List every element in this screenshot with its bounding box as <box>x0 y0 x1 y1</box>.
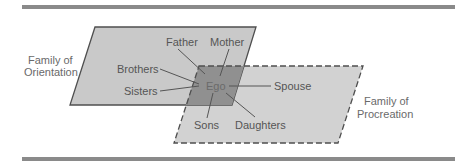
family-orientation-label-line2: Orientation <box>24 66 78 78</box>
spouse-label: Spouse <box>274 80 311 92</box>
sisters-label: Sisters <box>124 85 158 97</box>
father-label: Father <box>166 36 198 48</box>
mother-label: Mother <box>210 36 245 48</box>
family-procreation-label-line1: Family of <box>364 95 410 107</box>
brothers-label: Brothers <box>117 63 159 75</box>
daughters-label: Daughters <box>235 119 286 131</box>
sons-label: Sons <box>194 119 220 131</box>
family-orientation-label-line1: Family of <box>28 54 74 66</box>
top-rule <box>22 5 455 9</box>
family-procreation-label-line2: Procreation <box>357 108 413 120</box>
ego-label: Ego <box>206 80 226 92</box>
bottom-rule <box>22 157 455 161</box>
kinship-diagram: Family of Orientation Family of Procreat… <box>0 0 469 162</box>
